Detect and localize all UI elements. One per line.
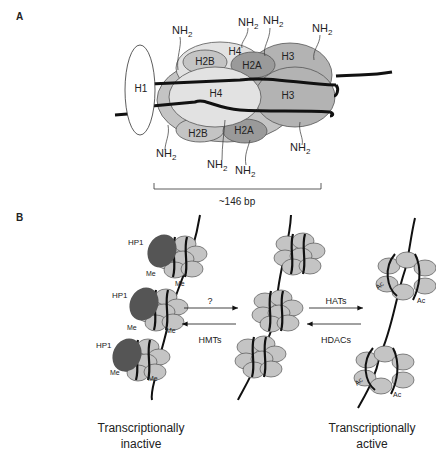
label-h2b-top: H2B [195,56,215,67]
caption-inactive-line2: inactive [121,437,162,451]
nucleosome-mid-2 [252,290,303,332]
me-label: Me [166,327,176,334]
svg-text:NH2: NH2 [312,22,333,37]
me-label: Me [127,324,137,331]
ac-label: Ac [417,297,426,304]
scale-bracket [154,183,321,189]
caption-active-line2: active [356,437,388,451]
me-label: Me [148,375,158,382]
label-h3-front: H3 [282,90,295,101]
svg-text:NH2: NH2 [238,16,259,31]
arrow-label-hats: HATs [326,296,347,306]
label-h2a-top: H2A [242,60,262,71]
label-h4-top: H4 [229,46,242,57]
panel-b-label: B [16,212,23,223]
me-label: Me [110,369,120,376]
arrow-label-hdacs: HDACs [321,335,352,345]
label-h3-top: H3 [282,51,295,62]
hp1-label-1: HP1 [128,238,144,247]
caption-inactive-line1: Transcriptionally [98,421,185,435]
caption-active-line1: Transcriptionally [329,421,416,435]
svg-text:NH2: NH2 [235,164,256,179]
hp1-label-3: HP1 [96,341,112,350]
svg-text:NH2: NH2 [172,24,193,39]
nucleosome-right-1 [376,252,436,300]
me-label: Me [146,270,156,277]
panel-a-label: A [16,11,23,22]
label-h2a-bottom: H2A [234,125,254,136]
ac-label: Ac [393,391,402,398]
label-h2b-bottom: H2B [188,128,208,139]
svg-text:NH2: NH2 [156,147,177,162]
arrow-label-question: ? [207,296,212,306]
hp1-label-2: HP1 [112,291,128,300]
arrow-label-hmts: HMTs [199,335,222,345]
figure: A H1 H4 H2B H2A H3 H4 H3 H2B H2A NH [0,0,436,455]
me-label: Me [175,280,185,287]
svg-text:NH2: NH2 [290,141,311,156]
svg-text:NH2: NH2 [207,158,228,173]
scale-label: ~146 bp [219,196,256,207]
svg-text:NH2: NH2 [263,14,284,29]
nucleosome-right-2 [354,346,414,394]
label-h1: H1 [135,83,148,94]
label-h4-front: H4 [210,88,223,99]
nucleosome-mid-3 [235,336,286,378]
